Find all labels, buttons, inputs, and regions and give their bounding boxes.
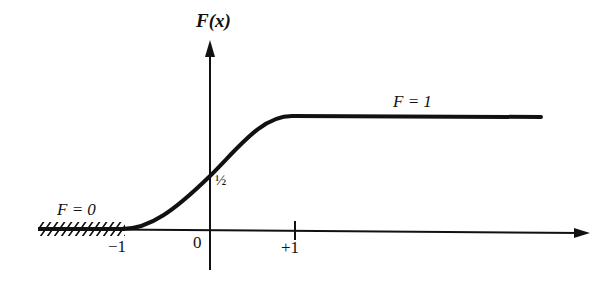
y-axis-label: F(x) — [195, 10, 231, 32]
tick-label-minus-one: −1 — [108, 237, 126, 256]
tick-label-plus-one: +1 — [281, 238, 299, 257]
half-label: ½ — [215, 172, 226, 188]
cdf-curve — [122, 116, 541, 229]
y-axis-arrow-icon — [205, 40, 215, 57]
f-one-label: F = 1 — [392, 92, 432, 111]
tick-label-zero: 0 — [193, 233, 202, 252]
f-zero-label: F = 0 — [56, 200, 96, 219]
cdf-figure: F(x) F = 0 F = 1 ½ −1 0 +1 — [0, 0, 615, 286]
x-axis-arrow-icon — [574, 228, 590, 238]
